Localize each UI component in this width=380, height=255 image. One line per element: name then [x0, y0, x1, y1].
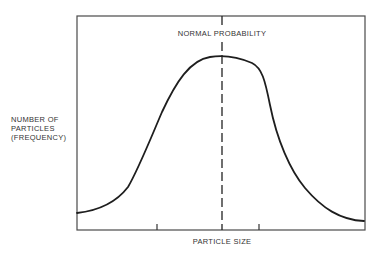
y-axis-label-line-1: NUMBER OF: [11, 115, 66, 124]
y-axis-label-line-3: (FREQUENCY): [11, 133, 66, 142]
x-axis-label: PARTICLE SIZE: [0, 237, 380, 246]
distribution-curve: [77, 56, 364, 221]
y-axis-label: NUMBER OF PARTICLES (FREQUENCY): [11, 115, 66, 142]
y-axis-label-line-2: PARTICLES: [11, 124, 66, 133]
plot-frame: [77, 16, 365, 230]
normal-probability-label: NORMAL PROBABILITY: [0, 29, 380, 38]
